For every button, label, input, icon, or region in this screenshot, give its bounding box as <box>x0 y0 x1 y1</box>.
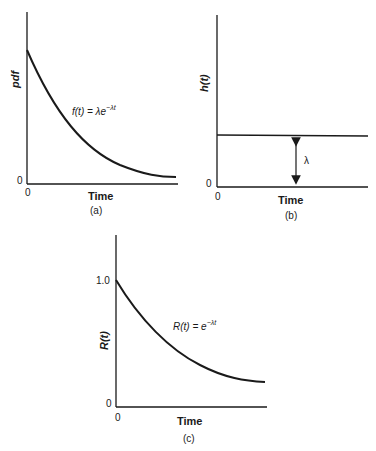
y-tick-0: 0 <box>206 178 212 189</box>
x-axis-label: Time <box>88 190 113 202</box>
hazard-line <box>217 135 368 136</box>
x-tick-0: 0 <box>25 187 31 198</box>
y-tick-0: 0 <box>17 175 23 186</box>
x-axis-label: Time <box>278 194 303 206</box>
y-tick-1: 1.0 <box>96 275 110 286</box>
figure: 0 0 Time pdf f(t) = λe−λt (a) λ 0 0 Time… <box>0 0 376 451</box>
caption-c: (c) <box>183 433 195 444</box>
panel-c: 1.0 0 0 Time R(t) R(t) = e−λt (c) <box>96 235 267 444</box>
y-axis-label: h(t) <box>198 74 210 92</box>
lambda-label: λ <box>304 155 309 166</box>
equation-label: R(t) = e−λt <box>173 319 217 332</box>
x-tick-0: 0 <box>215 191 221 202</box>
y-tick-0: 0 <box>106 398 112 409</box>
panel-a: 0 0 Time pdf f(t) = λe−λt (a) <box>9 12 178 216</box>
caption-a: (a) <box>90 205 102 216</box>
x-axis-label: Time <box>177 415 202 427</box>
equation-label: f(t) = λe−λt <box>72 104 117 117</box>
y-axis-label: pdf <box>9 70 21 89</box>
caption-b: (b) <box>285 210 297 221</box>
x-tick-0: 0 <box>115 412 121 423</box>
panel-b: λ 0 0 Time h(t) (b) <box>198 15 368 221</box>
y-axis-label: R(t) <box>98 331 110 350</box>
